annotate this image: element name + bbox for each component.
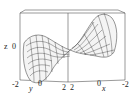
x-tick-neg2: -2 [122,81,129,89]
z-tick-0: 0 [12,43,16,51]
y-tick-2: 2 [62,84,66,92]
surface-plot [0,0,138,94]
x-axis-label: x [102,85,106,93]
y-tick-0: 0 [38,80,42,88]
y-axis-label: y [29,85,33,93]
z-axis-label: z [4,43,8,51]
x-tick-2: 2 [70,84,74,92]
x-tick-0: 0 [97,80,101,88]
y-tick-neg2: -2 [12,81,19,89]
surface-mesh [23,14,117,83]
